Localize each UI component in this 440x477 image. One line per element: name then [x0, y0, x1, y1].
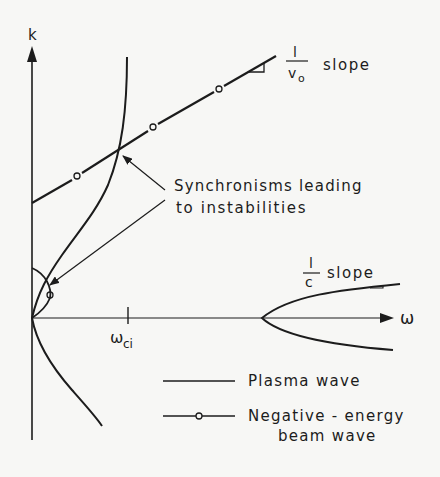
beam-marker	[150, 124, 156, 130]
svg-text:Plasma wave: Plasma wave	[248, 372, 361, 390]
svg-text:slope: slope	[323, 56, 370, 74]
synchronism-annotation: Synchronisms leading to instabilities	[174, 177, 363, 217]
k-axis-label: k	[28, 26, 37, 44]
beam-marker	[196, 413, 202, 419]
svg-text:o: o	[298, 72, 305, 85]
svg-text:l: l	[293, 44, 297, 60]
omega-axis: ω	[32, 308, 414, 328]
omega-ci-label: ω	[110, 328, 123, 347]
beam-marker	[74, 173, 80, 179]
svg-text:Negative - energy: Negative - energy	[248, 407, 405, 425]
plasma-wave-curve	[32, 57, 127, 426]
legend-item-plasma: Plasma wave	[163, 372, 361, 390]
svg-text:c: c	[305, 274, 313, 290]
svg-text:v: v	[288, 65, 296, 81]
k-axis: k	[27, 26, 37, 440]
legend: Plasma wave Negative - energy beam wave	[163, 372, 405, 445]
omega-ci-subscript: ci	[123, 337, 133, 351]
legend-item-beam: Negative - energy beam wave	[163, 407, 405, 445]
beam-marker	[216, 86, 222, 92]
light-slope-label: l c slope	[303, 255, 374, 290]
svg-text:beam wave: beam wave	[278, 427, 377, 445]
omega-axis-label: ω	[400, 308, 414, 328]
omega-axis-arrow-icon	[380, 313, 394, 323]
svg-text:l: l	[309, 255, 313, 271]
svg-text:Synchronisms leading: Synchronisms leading	[174, 177, 363, 195]
dispersion-diagram: k ω ω ci l v o slope	[0, 0, 440, 477]
k-axis-arrow-icon	[27, 46, 37, 62]
svg-text:to instabilities: to instabilities	[176, 199, 307, 217]
light-wave-curve	[262, 284, 400, 350]
synchronism-arrows	[50, 156, 165, 285]
svg-text:slope: slope	[327, 264, 374, 282]
beam-slope-label: l v o slope	[286, 44, 370, 85]
omega-ci-tick: ω ci	[110, 307, 133, 351]
